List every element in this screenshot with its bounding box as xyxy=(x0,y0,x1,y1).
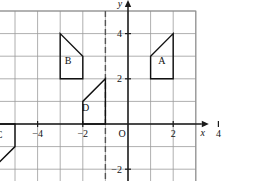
axis-names: xy xyxy=(117,0,206,138)
shape-label-b: B xyxy=(65,55,72,66)
x-tick-label: −4 xyxy=(32,128,43,139)
grid-frame xyxy=(0,11,196,181)
shape-label-c: C xyxy=(0,129,3,140)
y-axis-name: y xyxy=(117,0,123,9)
x-axis-name: x xyxy=(200,127,206,138)
y-tick-label: 2 xyxy=(117,73,122,84)
y-axis-arrow-icon xyxy=(125,0,131,7)
plot-border xyxy=(0,11,196,181)
coordinate-plane-figure: −4−22442−2O xy ABCD xyxy=(0,0,254,181)
x-tick-label: −2 xyxy=(77,128,88,139)
x-tick-label: 4 xyxy=(216,128,221,139)
origin-label: O xyxy=(118,128,125,139)
shape-label-a: A xyxy=(158,55,166,66)
x-tick-label: 2 xyxy=(171,128,176,139)
grid-lines xyxy=(0,11,196,181)
axis-lines xyxy=(0,0,209,181)
plot-canvas: −4−22442−2O xy ABCD xyxy=(0,0,254,181)
y-tick-label: 4 xyxy=(117,28,122,39)
y-tick-label: −2 xyxy=(111,164,122,175)
shape-label-d: D xyxy=(82,102,89,113)
